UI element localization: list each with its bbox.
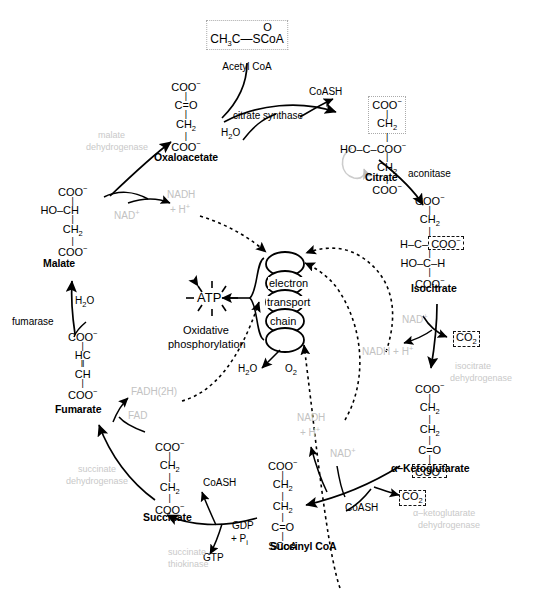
etc-word-transport: transport	[266, 296, 311, 308]
cit-ch2-top: CH2	[372, 118, 401, 132]
aconitase-label: aconitase	[408, 169, 451, 180]
malate-label: Malate	[43, 258, 75, 269]
fumarase-label: fumarase	[12, 317, 54, 328]
co2-akg-box: CO2	[399, 487, 426, 506]
isocitrate-dashed-box: COO−	[428, 236, 463, 251]
water-fumarase: H2O	[75, 296, 94, 309]
malate-structure: COO− | HO–CH | CH2 | COO−	[58, 185, 87, 258]
bond: |	[396, 228, 464, 236]
succinate-thiokinase-line2: thiokinase	[168, 560, 209, 569]
etc-word-chain: chain	[269, 315, 297, 327]
succinate-label: Succinate	[143, 512, 192, 523]
coash-citrate-synthase: CoASH	[309, 87, 342, 98]
malate-dehydrogenase-line1: malate	[98, 131, 125, 140]
oxidative-phosphorylation-line1: Oxidative	[183, 325, 229, 337]
co2-isocitrate-box: CO2	[453, 328, 480, 347]
succinate-dehydrogenase-line2: dehydrogenase	[66, 477, 128, 486]
succinyl-coa-structure: COO− | CH2 | CH2 | C=O | SCoA	[268, 459, 297, 552]
nadh-akg-line1: NADH	[297, 413, 325, 424]
acetyl-coa-structure: O CH3C—SCoA	[206, 20, 288, 50]
atp-label: ATP	[197, 291, 221, 305]
fad-label: FAD	[128, 411, 147, 422]
mal-hoch: HO–CH	[32, 205, 87, 216]
akg-dehydrogenase-line2: dehydrogenase	[418, 521, 480, 530]
coash-thiokinase: CoASH	[203, 478, 236, 489]
isocitrate-label: Isocitrate	[411, 283, 457, 294]
nadh-malate-line1: NADH	[167, 190, 195, 201]
bond: |	[368, 134, 406, 142]
citrate-dashed-box: COO− | CH2	[368, 96, 405, 134]
iso-row-hoch: HO–C–H	[382, 258, 464, 269]
malate-dehydrogenase-line2: dehydrogenase	[86, 143, 148, 152]
water-citrate-synthase: H2O	[221, 128, 240, 141]
water-etc: H2O	[238, 364, 257, 377]
alpha-ketoglutarate-label: α–Ketoglutarate	[391, 463, 469, 474]
nad-akg: NAD+	[330, 447, 356, 460]
acetyl-coa-dashed-box: O CH3C—SCoA	[206, 20, 288, 50]
succinate-thiokinase-line1: succinate	[168, 548, 206, 557]
isocitrate-dehydrogenase-line2: dehydrogenase	[450, 374, 512, 383]
succinate-structure: COO− | CH2 | CH2 | COO−	[155, 440, 184, 516]
tca-cycle-diagram: O CH3C—SCoA Acetyl CoA COO− | C=O | CH2 …	[0, 0, 546, 590]
bond: |	[396, 269, 464, 277]
oxidative-phosphorylation-line2: phosphorylation	[168, 339, 246, 351]
citrate-label: Citrate	[365, 172, 398, 183]
nad-isocitrate: NAD+	[402, 313, 428, 326]
nadh-malate-line2: + H+	[170, 203, 190, 216]
fumarate-label: Fumarate	[55, 404, 101, 415]
fum-coo-bot: COO−	[68, 388, 97, 401]
isocitrate-structure: COO− | CH2 | H–C–COO− | HO–C–H | COO−	[400, 194, 464, 289]
coash-akg: CoASH	[345, 503, 378, 514]
citrate-synthase-label: citrate synthase	[233, 111, 303, 122]
isocitrate-dehydrogenase-line1: isocitrate	[455, 362, 491, 371]
oxygen-etc: O2	[285, 364, 297, 377]
oxaloacetate-label: Oxaloacetate	[154, 152, 218, 163]
acetyl-coa-label: Acetyl CoA	[222, 62, 271, 73]
oxaloacetate-structure: COO− | C=O | CH2 | COO−	[171, 80, 200, 153]
fadh-label: FADH(2H)	[131, 387, 177, 398]
co2-isocitrate: CO2	[453, 331, 480, 347]
nad-malate: NAD+	[114, 209, 140, 222]
fumarate-structure: COO− | HC ‖ CH | COO−	[68, 330, 97, 400]
co2-akg: CO2	[399, 490, 426, 506]
cit-core: HO–C–COO−	[340, 142, 406, 155]
nadh-akg-line2: + H+	[300, 426, 320, 439]
akg-dehydrogenase-line1: α–ketoglutarate	[413, 509, 475, 518]
nadh-isocitrate: NADH + H+	[362, 345, 413, 358]
succinate-dehydrogenase-line1: succinate	[78, 465, 116, 474]
succinyl-coa-label: Succinyl CoA	[270, 541, 336, 552]
gdp-line1: GDP	[232, 521, 254, 532]
iso-row-hc: H–C–COO−	[400, 236, 464, 251]
acetyl-coa-formula: CH3C—SCoA	[210, 33, 284, 48]
etc-word-electron: electron	[268, 277, 309, 289]
gdp-line2: + Pi	[231, 534, 248, 547]
